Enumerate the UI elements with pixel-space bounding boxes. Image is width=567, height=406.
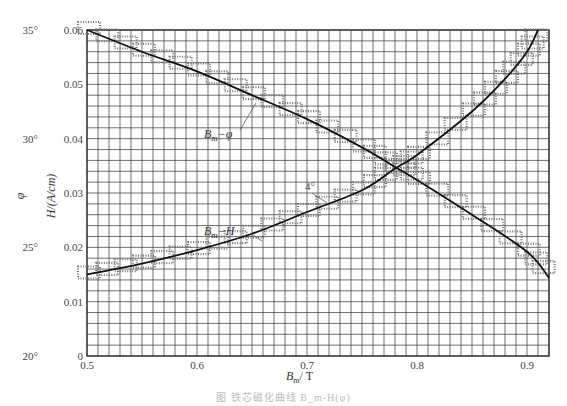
h-tick-label: 0.05 — [64, 78, 84, 90]
h-tick-label: 0.04 — [64, 133, 84, 145]
phi-tick-label: 35° — [23, 24, 38, 36]
phi-annotation: Bm−φ — [204, 127, 233, 143]
magnetization-chart: 0.50.60.70.80.9 00.010.020.030.040.050.0… — [0, 0, 567, 406]
h-tick-label: 0.03 — [64, 187, 84, 199]
phi-tick-label: 20° — [23, 350, 38, 362]
figure-caption: 图 铁芯磁化曲线 B_m-H(φ) — [0, 389, 567, 404]
h-tick-label: 0 — [78, 350, 84, 362]
phi-axis-label: φ — [13, 192, 27, 199]
x-tick-label: 0.8 — [410, 359, 424, 371]
phi-tick-label: 30° — [23, 133, 38, 145]
phi-tick-label: 25° — [23, 241, 38, 253]
deg-annotation-leader — [312, 193, 327, 203]
h-curve — [87, 30, 538, 275]
h-axis-ticks: 00.010.020.030.040.050.06 — [64, 24, 84, 362]
h-axis-label: H/(A/cm) — [44, 174, 58, 220]
h-tick-label: 0.01 — [64, 296, 83, 308]
phi-annotation-leader — [240, 103, 256, 130]
x-tick-label: 0.6 — [190, 359, 204, 371]
deg-annotation: 4° — [305, 180, 315, 192]
h-tick-label: 0.02 — [64, 241, 83, 253]
x-tick-label: 0.9 — [520, 359, 534, 371]
x-axis-label: Bm/ T — [286, 369, 314, 385]
grid — [87, 30, 549, 356]
h-annotation: Bm−H — [204, 224, 236, 240]
